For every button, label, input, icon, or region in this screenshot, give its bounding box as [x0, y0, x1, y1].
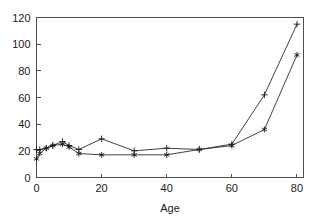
y-tick-label: 0	[24, 172, 30, 184]
chart-canvas: 020406080100120 020406080 Age	[0, 0, 318, 219]
y-tick-label: 20	[18, 145, 30, 157]
y-tick-label: 80	[18, 65, 30, 77]
y-tick-label: 120	[12, 12, 30, 24]
x-tick-label: 80	[291, 182, 303, 194]
x-tick-label: 40	[161, 182, 173, 194]
x-tick-label: 0	[33, 182, 39, 194]
x-tick-label: 20	[95, 182, 107, 194]
y-tick-label: 100	[12, 38, 30, 50]
chart-background	[0, 0, 318, 219]
y-tick-label: 40	[18, 118, 30, 130]
x-axis-title: Age	[160, 202, 180, 214]
chart-figure: 020406080100120 020406080 Age	[0, 0, 318, 219]
x-tick-label: 60	[226, 182, 238, 194]
y-tick-label: 60	[18, 92, 30, 104]
